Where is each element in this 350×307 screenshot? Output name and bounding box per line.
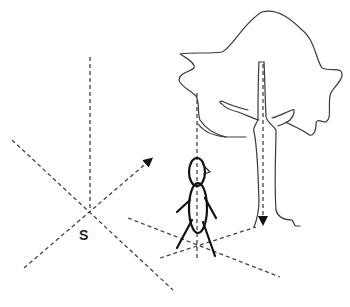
ground-line-2	[160, 227, 256, 258]
tree-left-branch	[220, 101, 259, 120]
figure-right-leg	[203, 222, 215, 256]
tree-trunk-left	[254, 62, 259, 227]
tree-crown-outline	[179, 11, 342, 137]
tree-trunk-right	[264, 62, 300, 226]
diagonal-axis-1	[12, 140, 173, 290]
origin-axes: S	[12, 57, 173, 290]
figure-left-leg	[177, 220, 192, 248]
tree-right-branch	[272, 110, 294, 126]
tree	[179, 11, 342, 227]
origin-label: S	[79, 227, 88, 243]
diagram-canvas: S	[0, 0, 350, 307]
